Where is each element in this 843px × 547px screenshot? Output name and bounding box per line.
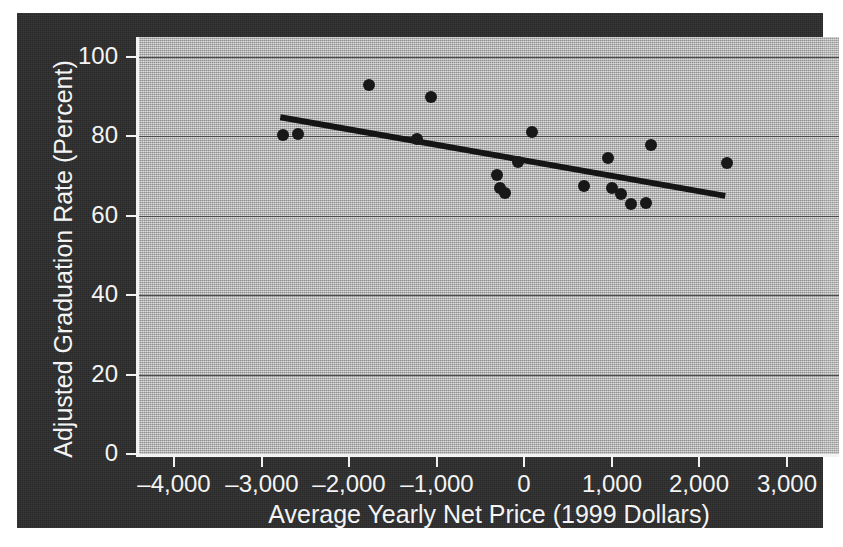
y-tick-label: 60 (0, 203, 118, 227)
data-point (578, 180, 590, 192)
data-point (512, 156, 524, 168)
data-point (411, 133, 423, 145)
y-tick-label: 100 (0, 44, 118, 68)
data-point (526, 126, 538, 138)
y-tick-label: 0 (0, 441, 118, 465)
data-point (645, 139, 657, 151)
x-axis-title: Average Yearly Net Price (1999 Dollars) (139, 500, 839, 528)
data-point (602, 152, 614, 164)
data-point (363, 79, 375, 91)
data-point (499, 187, 511, 199)
x-axis-spine (136, 454, 839, 457)
y-tick-label: 20 (0, 362, 118, 386)
trendline (139, 37, 839, 454)
plot-area (139, 37, 839, 454)
data-point (625, 198, 637, 210)
data-point (277, 129, 289, 141)
data-point (425, 91, 437, 103)
data-point (491, 169, 503, 181)
y-axis-title: Adjusted Graduation Rate (Percent) (49, 49, 77, 469)
y-tick-label: 40 (0, 282, 118, 306)
chart-frame: Adjusted Graduation Rate (Percent) 02040… (17, 13, 823, 528)
y-tick-label: 80 (0, 123, 118, 147)
data-point (615, 188, 627, 200)
x-tick-label: 3,000 (717, 472, 843, 496)
data-point (721, 157, 733, 169)
data-point (640, 197, 652, 209)
